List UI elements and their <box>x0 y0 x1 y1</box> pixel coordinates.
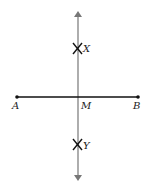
label-a: A <box>11 100 19 111</box>
label-b: B <box>132 100 140 111</box>
point-b-dot <box>136 95 140 99</box>
label-x: X <box>82 43 91 54</box>
point-a-dot <box>15 95 19 99</box>
perpendicular-bisector-diagram: A M B X Y <box>0 0 147 191</box>
label-m: M <box>80 100 92 111</box>
label-y: Y <box>83 140 91 151</box>
